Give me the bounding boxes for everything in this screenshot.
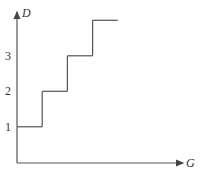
- y-tick-label: 3: [5, 49, 11, 63]
- y-axis-label: D: [21, 6, 31, 20]
- y-tick-label: 2: [5, 84, 11, 98]
- y-tick-label: 1: [5, 120, 11, 134]
- x-axis-label: G: [186, 156, 195, 170]
- step-diagram: D G 123: [0, 0, 202, 182]
